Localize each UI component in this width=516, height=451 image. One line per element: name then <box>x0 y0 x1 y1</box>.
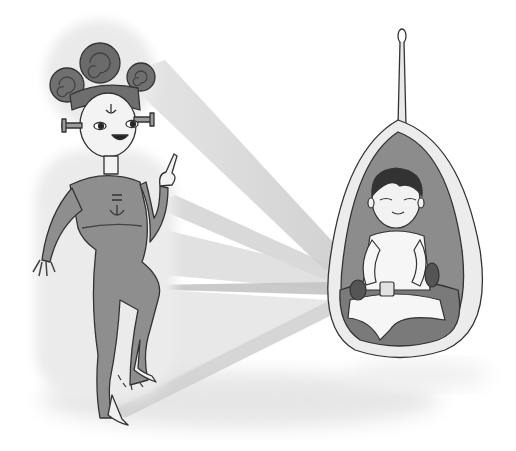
illustration <box>0 0 516 451</box>
cup <box>380 282 394 296</box>
hair-bun-center <box>80 43 120 83</box>
